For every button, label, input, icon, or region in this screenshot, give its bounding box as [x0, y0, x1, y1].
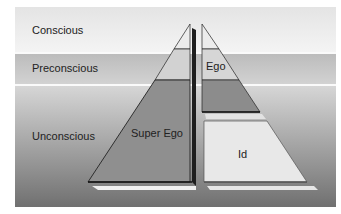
left-pyramid-middle — [155, 49, 190, 80]
id-label: Id — [238, 148, 247, 160]
left-pyramid-top — [174, 24, 190, 49]
super-ego-label: Super Ego — [131, 127, 183, 139]
ego-label: Ego — [206, 60, 226, 72]
right-pyramid-id — [204, 121, 307, 182]
pyramids — [0, 0, 341, 214]
